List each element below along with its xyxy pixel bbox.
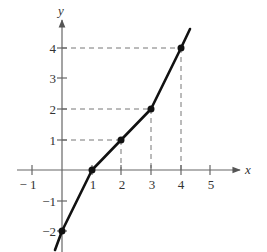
data-points	[59, 45, 185, 235]
data-point	[59, 228, 66, 235]
y-tick-label: −1	[42, 194, 56, 209]
x-tick-label: 2	[119, 177, 126, 192]
data-point	[118, 137, 125, 144]
x-tick-label: 3	[149, 177, 156, 192]
y-tick-label: 4	[50, 41, 57, 56]
y-tick-label: −2	[42, 224, 56, 239]
x-tick-labels: − 1 1 2 3 4 5	[19, 177, 214, 192]
x-tick-label: 4	[178, 177, 185, 192]
function-graph: y x − 1 1 2 3 4 5 4 3 2 1 −1 −2	[0, 0, 267, 252]
data-point	[148, 106, 155, 113]
data-point	[178, 45, 185, 52]
x-axis-label: x	[244, 162, 251, 177]
y-tick-label: 1	[50, 133, 57, 148]
x-tick-label: 1	[90, 177, 97, 192]
dashed-guides	[62, 48, 181, 170]
data-point	[89, 167, 96, 174]
x-tick-label: − 1	[19, 177, 36, 192]
y-tick-label: 2	[50, 102, 57, 117]
y-axis-label: y	[56, 3, 64, 18]
x-tick-label: 5	[208, 177, 215, 192]
y-tick-label: 3	[50, 71, 57, 86]
y-tick-labels: 4 3 2 1 −1 −2	[42, 41, 56, 239]
